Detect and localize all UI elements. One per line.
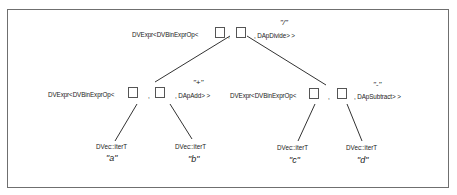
leaf-a-type: DVec::iterT xyxy=(96,143,127,150)
left-separator: , xyxy=(148,92,150,100)
root-left-slot xyxy=(215,27,225,38)
root-suffix: , DApDivide> > xyxy=(254,32,295,40)
right-suffix: , DApSubtract> > xyxy=(354,93,401,101)
root-right-slot xyxy=(236,27,246,38)
right-left-slot xyxy=(309,88,319,99)
right-op-label: "-" xyxy=(373,80,381,89)
leaf-d-type: DVec::iterT xyxy=(346,144,377,151)
left-op-label: "+" xyxy=(193,78,203,87)
leaf-c-symbol: "c" xyxy=(289,155,300,165)
root-separator: , xyxy=(228,32,230,40)
leaf-b-type: DVec::iterT xyxy=(175,143,206,150)
leaf-b-symbol: "b" xyxy=(188,154,199,164)
root-op-label: "/" xyxy=(280,18,288,27)
right-separator: , xyxy=(328,93,330,101)
left-right-slot xyxy=(155,87,165,98)
root-prefix: DVExpr<DVBinExprOp< xyxy=(132,31,198,39)
leaf-d-symbol: "d" xyxy=(357,155,368,165)
leaf-c-type: DVec::iterT xyxy=(277,144,308,151)
right-right-slot xyxy=(337,88,347,99)
leaf-a-symbol: "a" xyxy=(106,153,117,163)
left-suffix: , DApAdd> > xyxy=(175,92,210,100)
left-prefix: DVExpr<DVBinExprOp< xyxy=(48,91,114,99)
right-prefix: DVExpr<DVBinExprOp< xyxy=(230,92,296,100)
left-left-slot xyxy=(128,87,138,98)
